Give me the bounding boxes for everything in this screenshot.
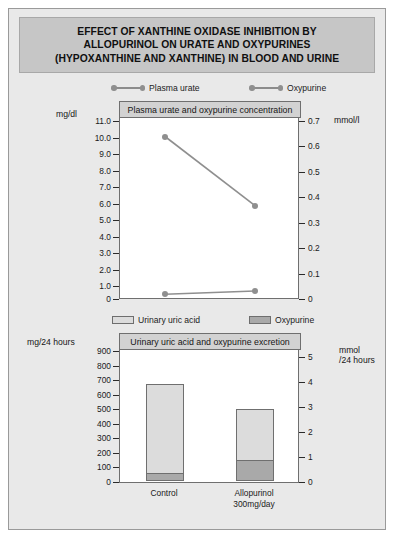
tick-label: 500 [71, 404, 111, 414]
figure-container: EFFECT OF XANTHINE OXIDASE INHIBITION BY… [8, 8, 386, 530]
tick-label: 400 [71, 419, 111, 429]
top-chart-legend: Plasma urate Oxypurine [9, 81, 387, 95]
category-label-control: Control [124, 488, 204, 499]
tick-label: 700 [71, 375, 111, 385]
tick-label: 6.0 [69, 199, 111, 209]
tick-label: 0.5 [308, 167, 342, 177]
category-label-line-1: Control [124, 488, 204, 499]
tick-label: 10.0 [69, 133, 111, 143]
category-label-allopurinol: Allopurinol 300mg/day [214, 488, 294, 509]
legend-label: Oxypurine [287, 83, 326, 93]
legend-label: Oxypurine [275, 315, 314, 325]
tick-label: 5 [308, 352, 338, 362]
data-point-oxypurine-allopurinol [252, 288, 258, 294]
figure-title-band: EFFECT OF XANTHINE OXIDASE INHIBITION BY… [19, 17, 375, 73]
bottom-chart-legend: Urinary uric acid Oxypurine [9, 313, 387, 327]
swatch-icon [249, 316, 271, 324]
tick-label: 800 [71, 361, 111, 371]
bar-allopurinol-oxypurine [236, 460, 274, 481]
page-title: EFFECT OF XANTHINE OXIDASE INHIBITION BY… [55, 25, 339, 66]
tick-label: 600 [71, 390, 111, 400]
tick-label: 7.0 [69, 182, 111, 192]
bottom-plot-header: Urinary uric acid and oxypurine excretio… [119, 333, 301, 350]
bottom-chart-panel: Urinary uric acid Oxypurine mg/24 hours … [9, 305, 387, 531]
legend-label: Plasma urate [149, 83, 200, 93]
line-marker-icon [249, 84, 283, 92]
tick-label: 0 [308, 477, 338, 487]
bar-allopurinol-uric-acid [236, 409, 274, 461]
tick-label: 0 [69, 294, 111, 304]
tick-label: 0 [71, 477, 111, 487]
tick-label: 0.6 [308, 141, 342, 151]
tick-label: 1.0 [69, 281, 111, 291]
tick-label: 9.0 [69, 149, 111, 159]
tick-label: 3.0 [69, 248, 111, 258]
title-line-2: ALLOPURINOL ON URATE AND OXYPURINES [55, 38, 339, 52]
tick-label: 0.2 [308, 243, 342, 253]
tick-label: 4.0 [69, 232, 111, 242]
bar-control-oxypurine [146, 473, 184, 481]
bar-control-uric-acid [146, 384, 184, 474]
legend-item-oxypurine: Oxypurine [249, 315, 314, 325]
bottom-right-unit-line-1: mmol [339, 345, 375, 355]
legend-item-oxypurine: Oxypurine [249, 83, 326, 93]
tick-label: 0.4 [308, 192, 342, 202]
tick-label: 2 [308, 427, 338, 437]
tick-label: 3 [308, 402, 338, 412]
bottom-left-axis-unit: mg/24 hours [27, 337, 75, 347]
category-label-line-1: Allopurinol [214, 488, 294, 499]
tick-label: 100 [71, 462, 111, 472]
tick-label: 300 [71, 433, 111, 443]
data-point-plasma-urate-allopurinol [252, 203, 258, 209]
title-line-3: (HYPOXANTHINE AND XANTHINE) IN BLOOD AND… [55, 52, 339, 66]
tick-label: 5.0 [69, 215, 111, 225]
tick-label: 8.0 [69, 166, 111, 176]
tick-label: 1 [308, 452, 338, 462]
tick-label: 0.1 [308, 269, 342, 279]
tick-label: 200 [71, 448, 111, 458]
bottom-plot-area: Urinary uric acid and oxypurine excretio… [119, 333, 299, 483]
tick-label: 2.0 [69, 265, 111, 275]
legend-label: Urinary uric acid [138, 315, 200, 325]
legend-item-plasma-urate: Plasma urate [111, 83, 200, 93]
top-series-overlay [120, 102, 300, 300]
category-label-line-2: 300mg/day [214, 499, 294, 510]
line-marker-icon [111, 84, 145, 92]
tick-label: 0 [308, 294, 342, 304]
bottom-right-axis-unit: mmol /24 hours [339, 345, 375, 365]
tick-label: 4 [308, 377, 338, 387]
tick-label: 900 [71, 346, 111, 356]
top-plot-area: Plasma urate and oxypurine concentration [119, 101, 299, 299]
top-chart-panel: Plasma urate Oxypurine mg/dl mmol/l Plas… [9, 73, 387, 305]
data-point-plasma-urate-control [162, 134, 168, 140]
swatch-icon [112, 316, 134, 324]
tick-label: 11.0 [69, 116, 111, 126]
tick-label: 0.7 [308, 116, 342, 126]
tick-label: 0.3 [308, 218, 342, 228]
title-line-1: EFFECT OF XANTHINE OXIDASE INHIBITION BY [55, 25, 339, 39]
bottom-right-unit-line-2: /24 hours [339, 355, 375, 365]
legend-item-urinary-uric-acid: Urinary uric acid [112, 315, 200, 325]
